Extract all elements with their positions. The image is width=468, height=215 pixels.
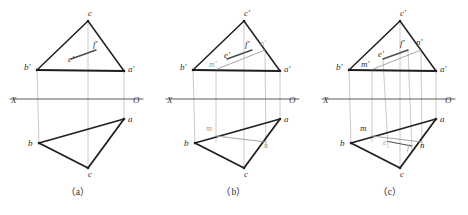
panel-caption-c: （c） (312, 184, 468, 198)
axis-label-x: X (322, 95, 329, 105)
auxiliary-line-m-n (216, 136, 266, 142)
panel-caption-a: （a） (0, 184, 156, 198)
point-label-c-bottom: c (88, 169, 92, 179)
point-label-e-lower: e (383, 138, 387, 147)
point-b (38, 142, 41, 145)
point-label-e-prime: e′ (378, 49, 385, 59)
point-label-m-prime: m′ (209, 60, 217, 69)
recall-line-b (193, 68, 195, 145)
point-label-e-prime: e′ (224, 50, 231, 60)
edge-c-a (244, 119, 280, 168)
point-label-c-bottom: c (244, 169, 248, 179)
figure-root: XOcb′a′bace′f′（a）XOc′b′a′bace′f′m′n′mn（b… (0, 0, 468, 215)
point-cprime (87, 20, 90, 23)
edge-bprime-aprime (349, 70, 436, 71)
edge-bprime-cprime (37, 21, 88, 70)
point-label-f-prime: f′ (245, 39, 251, 49)
point-label-f-lower: f (407, 143, 411, 152)
point-label-a-lower: a (440, 114, 445, 124)
point-label-c-bottom: c (400, 169, 404, 179)
axis-label-o: O (289, 95, 296, 105)
edge-c-a (88, 119, 124, 168)
point-label-c-top: c (88, 8, 92, 18)
point-label-n-prime: n′ (260, 39, 266, 48)
point-label-a-prime: a′ (128, 64, 136, 74)
axis-label-x: X (166, 95, 173, 105)
point-label-b-prime: b′ (336, 62, 344, 72)
point-label-c-prime-top: c′ (400, 8, 407, 18)
edge-bprime-aprime (193, 70, 280, 71)
point-label-f-prime: f′ (400, 38, 406, 48)
recall-line-f (408, 50, 412, 152)
axis-label-o: O (133, 95, 140, 105)
projection-panel-a: XOcb′a′bace′f′ (0, 0, 156, 215)
point-b (194, 142, 197, 145)
point-label-a-prime: a′ (440, 64, 448, 74)
point-label-n-lower: n (264, 141, 268, 150)
point-aprime (279, 70, 282, 73)
point-label-n-lower: n (420, 140, 425, 150)
point-a (435, 118, 438, 121)
point-bprime (36, 69, 39, 72)
edge-c-a (400, 119, 436, 168)
recall-line-b (37, 68, 39, 145)
edge-b-a (39, 119, 124, 143)
axis-label-x: X (10, 95, 17, 105)
point-label-m-lower: m (206, 124, 212, 133)
edge-bprime-cprime (193, 21, 244, 70)
edge-bprime-cprime (349, 21, 400, 70)
point-label-b-prime: b′ (180, 62, 188, 72)
point-aprime (435, 70, 438, 73)
projection-drawing-c: XOc′b′a′bace′f′m′n′mnef (312, 0, 468, 215)
point-label-b-lower: b (184, 138, 189, 148)
recall-line-b (349, 68, 351, 145)
edge-b-c (39, 143, 88, 168)
point-cprime (399, 20, 402, 23)
segment-eprime-fprime (71, 50, 96, 59)
point-bprime (192, 69, 195, 72)
point-cprime (243, 20, 246, 23)
edge-b-c (351, 143, 400, 168)
projection-panel-c: XOc′b′a′bace′f′m′n′mnef (312, 0, 468, 215)
point-bprime (348, 69, 351, 72)
point-label-b-lower: b (28, 138, 33, 148)
auxiliary-line-m-n (372, 136, 422, 142)
point-label-b-lower: b (340, 138, 345, 148)
edge-b-c (195, 143, 244, 168)
edge-bprime-aprime (37, 70, 124, 71)
point-label-a-lower: a (128, 114, 133, 124)
point-label-c-prime-top: c′ (244, 8, 251, 18)
point-a (279, 118, 282, 121)
projection-panel-b: XOc′b′a′bace′f′m′n′mn (156, 0, 312, 215)
point-label-m-prime: m′ (361, 59, 370, 69)
segment-eprime-fprime (227, 50, 252, 59)
segment-eprime-fprime (383, 50, 408, 59)
projection-drawing-a: XOcb′a′bace′f′ (0, 0, 156, 215)
point-aprime (123, 70, 126, 73)
projection-drawing-b: XOc′b′a′bace′f′m′n′mn (156, 0, 312, 215)
point-label-m-lower: m (360, 123, 367, 133)
point-label-f-prime: f′ (93, 39, 99, 49)
point-b (350, 142, 353, 145)
point-a (123, 118, 126, 121)
point-label-b-prime: b′ (24, 62, 32, 72)
panel-caption-b: （b） (156, 184, 312, 198)
point-label-e-prime: e′ (68, 54, 75, 64)
point-label-n-prime: n′ (416, 37, 424, 47)
axis-label-o: O (445, 95, 452, 105)
point-label-a-prime: a′ (284, 64, 292, 74)
point-label-a-lower: a (284, 114, 289, 124)
